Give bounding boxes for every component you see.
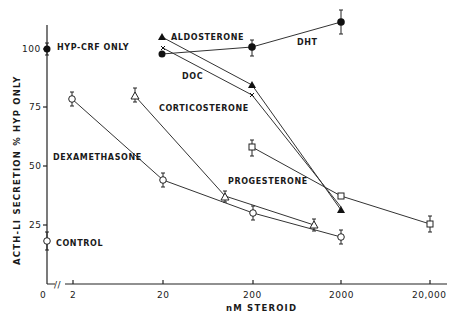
markers bbox=[44, 18, 434, 244]
y-tick-100: 100 bbox=[22, 44, 41, 54]
x-axis-label: nM STEROID bbox=[226, 303, 297, 313]
y-tick-25: 25 bbox=[29, 220, 41, 230]
x-tick-0: 0 bbox=[40, 290, 46, 300]
x-tick-200: 200 bbox=[243, 290, 262, 300]
label-hyp-crf-only: HYP-CRF ONLY bbox=[57, 43, 129, 52]
series-dexamethasone-line bbox=[72, 99, 341, 237]
label-dht: DHT bbox=[297, 38, 318, 47]
dose-response-chart: // 100 75 50 25 0 2 20 200 2000 20,000 n… bbox=[0, 0, 457, 322]
x-tick-2000: 2000 bbox=[329, 290, 354, 300]
label-doc: DOC bbox=[182, 72, 203, 81]
label-corticosterone: CORTICOSTERONE bbox=[159, 104, 249, 113]
axis-break: // bbox=[54, 280, 62, 290]
label-dexamethasone: DEXAMETHASONE bbox=[53, 153, 142, 162]
label-control: CONTROL bbox=[56, 239, 103, 248]
y-tick-75: 75 bbox=[29, 102, 41, 112]
label-aldosterone: ALDOSTERONE bbox=[171, 33, 244, 42]
hyp-crf-marker bbox=[44, 46, 51, 53]
x-tick-2: 2 bbox=[70, 290, 76, 300]
x-tick-20: 20 bbox=[157, 290, 169, 300]
y-axis-label: ACTH-LI SECRETION % HYP ONLY bbox=[12, 75, 22, 265]
series-corticosterone-line bbox=[135, 96, 314, 225]
control-marker bbox=[44, 238, 51, 245]
y-tick-50: 50 bbox=[29, 161, 41, 171]
label-progesterone: PROGESTERONE bbox=[228, 177, 308, 186]
x-tick-20000: 20,000 bbox=[412, 290, 447, 300]
